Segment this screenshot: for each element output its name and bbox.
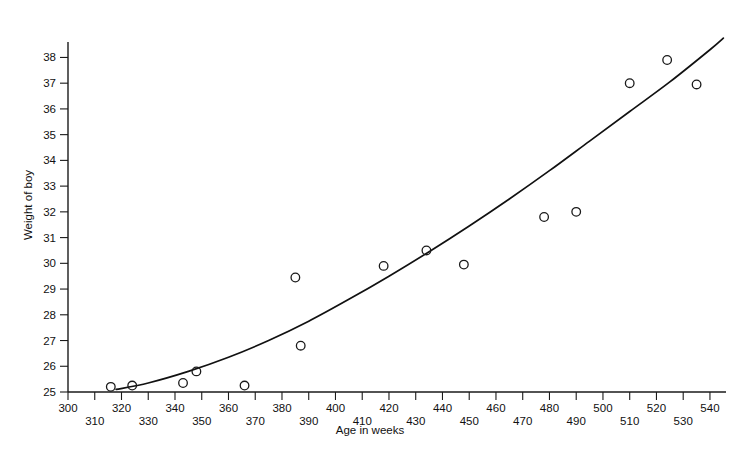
x-axis-title: Age in weeks [336,424,405,436]
plot-canvas: 2526272829303132333435363738 30031032033… [0,0,744,457]
x-tick-label: 390 [299,415,318,427]
x-tick-label: 460 [486,402,505,414]
y-tick-label: 36 [43,103,56,115]
y-tick-label: 33 [43,180,56,192]
data-point [379,262,388,271]
data-point [296,341,305,350]
y-axis-ticks [60,57,68,392]
x-tick-label: 490 [567,415,586,427]
x-tick-label: 510 [620,415,639,427]
x-axis-group: 3003103203303403503603703803904004104204… [58,392,726,427]
x-tick-label: 400 [326,402,345,414]
x-tick-label: 370 [246,415,265,427]
y-tick-label: 27 [43,335,56,347]
x-tick-label: 360 [219,402,238,414]
y-axis-tick-labels: 2526272829303132333435363738 [43,51,56,398]
x-tick-label: 430 [406,415,425,427]
x-tick-label: 350 [192,415,211,427]
data-point [460,260,469,269]
y-tick-label: 35 [43,129,56,141]
data-point [179,379,188,388]
y-axis-title: Weight of boy [22,170,34,240]
x-axis-ticks [68,392,710,400]
data-point [540,213,549,222]
y-tick-label: 26 [43,360,56,372]
y-axis-group: 2526272829303132333435363738 [43,42,68,398]
x-tick-label: 540 [700,402,719,414]
data-point [692,80,701,89]
x-tick-label: 520 [647,402,666,414]
x-tick-label: 440 [433,402,452,414]
scatter-plot-figure: 2526272829303132333435363738 30031032033… [0,0,744,457]
x-tick-label: 300 [58,402,77,414]
y-tick-label: 30 [43,257,56,269]
data-point [291,273,300,282]
x-tick-label: 530 [674,415,693,427]
x-tick-label: 310 [85,415,104,427]
data-point-markers [107,56,701,391]
x-tick-label: 330 [139,415,158,427]
x-tick-label: 320 [112,402,131,414]
data-point [663,56,672,65]
x-tick-label: 450 [460,415,479,427]
y-tick-label: 32 [43,206,56,218]
data-point [240,381,249,390]
x-tick-label: 420 [379,402,398,414]
y-tick-label: 34 [43,154,56,166]
y-tick-label: 31 [43,232,56,244]
x-tick-label: 480 [540,402,559,414]
data-point [107,383,116,392]
x-tick-label: 500 [593,402,612,414]
data-point [625,79,634,88]
y-tick-label: 28 [43,309,56,321]
fitted-trend-curve [116,38,723,389]
y-tick-label: 38 [43,51,56,63]
y-tick-label: 25 [43,386,56,398]
x-tick-label: 380 [272,402,291,414]
y-tick-label: 29 [43,283,56,295]
x-tick-label: 340 [165,402,184,414]
x-tick-label: 470 [513,415,532,427]
data-point [572,208,581,217]
y-tick-label: 37 [43,77,56,89]
